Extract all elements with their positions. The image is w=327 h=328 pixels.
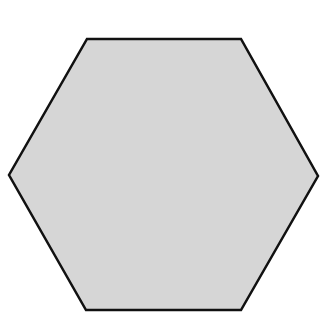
diagram-canvas [0, 0, 327, 328]
hexagon-shape [9, 39, 318, 310]
hexagon-figure [0, 0, 327, 328]
